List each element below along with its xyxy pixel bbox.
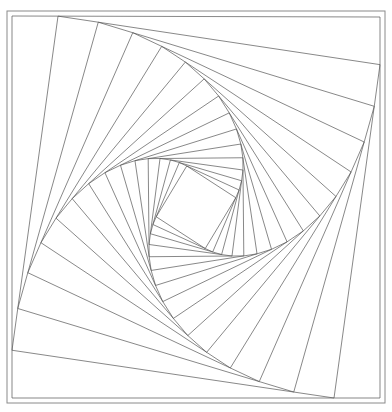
figure-root bbox=[0, 0, 392, 412]
whirling-squares-figure bbox=[0, 0, 392, 412]
figure-background bbox=[0, 0, 392, 412]
